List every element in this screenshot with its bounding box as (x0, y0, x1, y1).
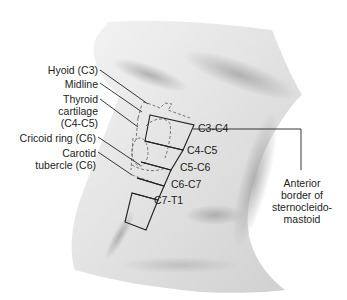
label-cricoid: Cricoid ring (C6) (0, 132, 96, 144)
label-thyroid-line2: cartilage (10, 105, 98, 117)
level-c3-c4: C3-C4 (198, 122, 228, 134)
label-thyroid-line1: Thyroid (10, 93, 98, 105)
label-scm-line3: sternocleido- (262, 201, 342, 213)
level-c7-t1: C7-T1 (154, 194, 183, 206)
label-scm-line1: Anterior (262, 177, 342, 189)
label-scm-line4: mastoid (262, 213, 342, 225)
level-c5-c6: C5-C6 (180, 161, 210, 173)
label-thyroid-line3: (C4-C5) (10, 117, 98, 129)
level-c6-c7: C6-C7 (171, 178, 201, 190)
label-carotid-line2: tubercle (C6) (0, 159, 96, 171)
label-midline: Midline (10, 78, 98, 90)
label-carotid-line1: Carotid (0, 147, 96, 159)
level-c4-c5: C4-C5 (187, 144, 217, 156)
label-hyoid: Hyoid (C3) (10, 64, 98, 76)
label-scm-line2: border of (262, 189, 342, 201)
